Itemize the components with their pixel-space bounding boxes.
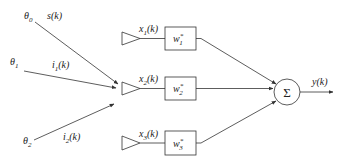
w2-label: w*2 <box>173 82 184 97</box>
svg-text:θ2: θ2 <box>23 135 32 149</box>
beamformer-diagram: θ0 s(k) θ1 i1(k) θ2 i2(k) x1(k) w*1 x2(k… <box>0 0 346 167</box>
source-theta-0: θ0 <box>24 10 33 24</box>
svg-text:i1(k): i1(k) <box>52 59 70 73</box>
arrow-w1-to-sum <box>196 39 276 85</box>
output-label: y(k) <box>311 76 328 88</box>
sigma-icon: Σ <box>283 85 291 100</box>
sensor-3-icon <box>122 136 140 150</box>
sensor-1-icon <box>122 32 140 45</box>
arrow-source-1 <box>24 71 116 88</box>
w3-label: w*3 <box>173 137 184 152</box>
sensor-2-icon <box>122 82 140 95</box>
source-theta-1: θ1 <box>10 56 18 70</box>
arrow-source-0 <box>35 22 118 84</box>
w1-label: w*1 <box>173 32 184 47</box>
svg-text:i2(k): i2(k) <box>63 131 81 145</box>
svg-text:s(k): s(k) <box>47 10 63 22</box>
source-theta-2: θ2 <box>23 135 32 149</box>
signal-label-i2: i2(k) <box>63 131 81 145</box>
svg-text:θ1: θ1 <box>10 56 18 70</box>
x1-label: x1(k) <box>138 23 159 37</box>
x3-label: x3(k) <box>138 128 159 142</box>
svg-text:θ0: θ0 <box>24 10 33 24</box>
signal-label-i1: i1(k) <box>52 59 70 73</box>
x2-label: x2(k) <box>138 73 159 87</box>
signal-label-s: s(k) <box>47 10 63 22</box>
arrow-w3-to-sum <box>196 101 276 143</box>
